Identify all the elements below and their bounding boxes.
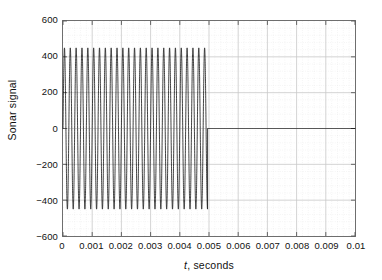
sonar-signal-figure: Sonar signal −600−400−2000200400600 00.0…	[0, 0, 382, 280]
x-axis-title-units: , seconds	[187, 259, 234, 271]
y-tick-label: −400	[36, 196, 58, 206]
x-axis-tick-labels: 00.0010.0020.0030.0040.0050.0060.0070.00…	[0, 241, 382, 255]
y-tick-label: 400	[42, 51, 58, 61]
sonar-signal-waveform	[63, 21, 355, 236]
y-axis-tick-labels: −600−400−2000200400600	[0, 20, 58, 237]
y-tick-label: 600	[42, 15, 58, 25]
y-tick-label: −200	[36, 160, 58, 170]
x-tick-label: 0.01	[336, 241, 376, 251]
y-tick-label: 0	[53, 124, 58, 134]
y-tick-label: 200	[42, 87, 58, 97]
plot-area	[62, 20, 356, 237]
x-axis-title: t, seconds	[62, 259, 356, 271]
